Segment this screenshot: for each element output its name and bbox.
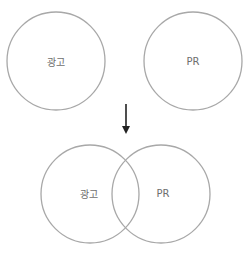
label-pr-separate: PR — [187, 56, 200, 67]
label-ad-overlap: 광고 — [80, 186, 98, 201]
label-ad-separate: 광고 — [47, 54, 65, 69]
label-pr-overlap: PR — [157, 188, 170, 199]
down-arrow-icon — [122, 104, 130, 134]
venn-diagram: 광고 PR 광고 PR — [0, 0, 249, 254]
